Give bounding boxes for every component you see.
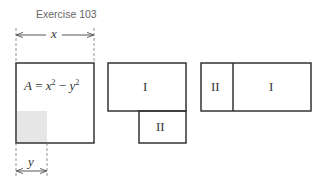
figure-3-region-I-label: I: [269, 79, 273, 95]
figure-2-split-regions: [108, 63, 186, 143]
area-var: A: [24, 78, 32, 93]
removed-small-square: [17, 111, 47, 143]
figure-3-region-II-label: II: [211, 79, 220, 95]
area-formula: A = x2 − y2: [24, 78, 79, 94]
y-label: y: [28, 154, 34, 170]
figure-2-region-I-label: I: [143, 79, 147, 95]
figure-2-region-II-label: II: [156, 119, 165, 135]
x-label: x: [51, 26, 57, 42]
